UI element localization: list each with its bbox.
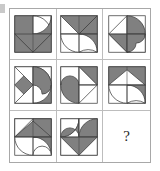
- figure-r1c3: [108, 15, 146, 53]
- matrix-cell-r3c2[interactable]: [57, 111, 104, 162]
- puzzle-frame: ?: [9, 8, 151, 163]
- matrix-cell-r2c3[interactable]: [103, 60, 150, 111]
- corner-artifact: [0, 4, 5, 13]
- matrix-cell-r1c1[interactable]: [10, 9, 57, 60]
- figure-r2c1: [14, 66, 52, 104]
- matrix-cell-r1c3[interactable]: [103, 9, 150, 60]
- figure-r3c1: [14, 118, 52, 156]
- matrix-cell-r3c3-answer[interactable]: ?: [103, 111, 150, 162]
- figure-r1c2: [60, 15, 98, 53]
- question-mark: ?: [123, 129, 130, 144]
- matrix-cell-r3c1[interactable]: [10, 111, 57, 162]
- matrix-grid: ?: [10, 9, 150, 162]
- puzzle-screenshot: ?: [0, 0, 160, 171]
- figure-r2c3: [108, 66, 146, 104]
- figure-r1c1: [14, 15, 52, 53]
- matrix-cell-r1c2[interactable]: [57, 9, 104, 60]
- figure-r3c2: [60, 118, 98, 156]
- matrix-cell-r2c2[interactable]: [57, 60, 104, 111]
- matrix-cell-r2c1[interactable]: [10, 60, 57, 111]
- figure-r2c2: [60, 66, 98, 104]
